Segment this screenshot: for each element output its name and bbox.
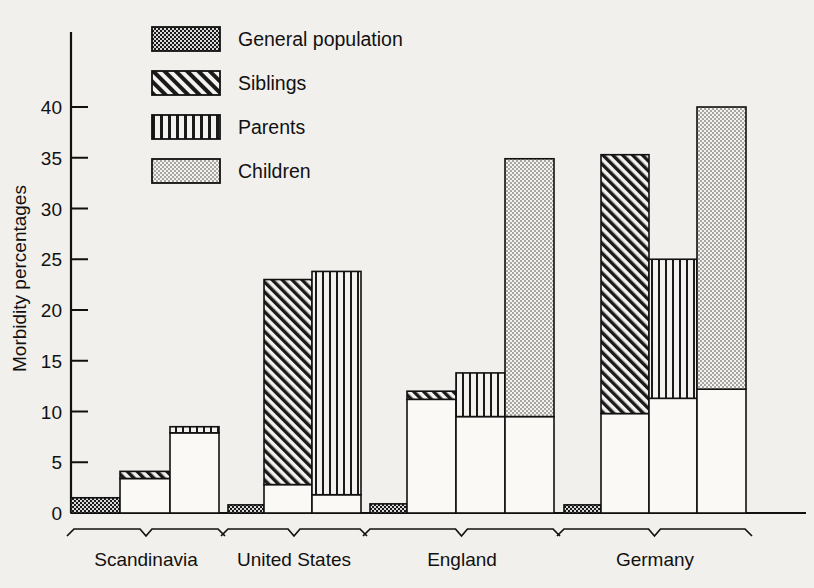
bar: [370, 504, 407, 513]
y-tick-label: 10: [41, 402, 62, 423]
legend-swatch-children: [152, 159, 220, 183]
y-tick-label: 5: [51, 452, 62, 473]
bar: [505, 159, 554, 513]
bar-pattern-segment: [170, 427, 219, 433]
bar-pattern-segment: [312, 271, 361, 494]
group-bracket: [557, 529, 752, 536]
legend-label: Siblings: [238, 72, 307, 94]
bar-pattern-segment: [564, 505, 601, 513]
legend-label: Parents: [238, 116, 305, 138]
chart-legend: General populationSiblingsParentsChildre…: [152, 27, 403, 183]
y-tick-label: 25: [41, 249, 62, 270]
bar-white-base-segment: [649, 398, 697, 513]
bar-white-base-segment: [407, 399, 456, 513]
group-label: England: [427, 549, 497, 570]
bar-pattern-segment: [697, 107, 746, 389]
cropped-caption-fragment: [0, 0, 814, 10]
bar: [71, 498, 120, 513]
group-bracket: [363, 529, 560, 536]
group-label: Scandinavia: [94, 549, 198, 570]
bar-pattern-segment: [601, 155, 649, 414]
y-axis: 0510152025303540 Morbidity percentages: [9, 32, 88, 524]
legend-label: General population: [238, 28, 403, 50]
y-tick-label: 15: [41, 351, 62, 372]
y-tick-label: 30: [41, 199, 62, 220]
bar-pattern-segment: [71, 498, 120, 513]
chart-canvas: 0510152025303540 Morbidity percentages S…: [0, 0, 814, 588]
bar-white-base-segment: [312, 495, 361, 513]
bar-pattern-segment: [407, 391, 456, 399]
bar-pattern-segment: [649, 259, 697, 398]
bar-pattern-segment: [370, 504, 407, 513]
bar-white-base-segment: [264, 485, 312, 513]
bar-white-base-segment: [505, 417, 554, 513]
group-bracket: [221, 529, 367, 536]
bar: [264, 280, 312, 513]
bar-white-base-segment: [697, 389, 746, 513]
bar: [601, 155, 649, 513]
group-label: Germany: [616, 549, 695, 570]
bar: [649, 259, 697, 513]
bar-white-base-segment: [120, 478, 170, 513]
bar-white-base-segment: [601, 414, 649, 513]
legend-swatch-parents: [152, 115, 220, 139]
bar: [228, 505, 264, 513]
bar-pattern-segment: [228, 505, 264, 513]
bar: [564, 505, 601, 513]
legend-swatch-general-population: [152, 27, 220, 51]
group-label: United States: [237, 549, 351, 570]
bar: [120, 471, 170, 513]
bar: [456, 373, 505, 513]
bar: [312, 271, 361, 513]
y-tick-label: 0: [51, 503, 62, 524]
bar-pattern-segment: [456, 373, 505, 417]
legend-label: Children: [238, 160, 311, 182]
y-tick-label: 20: [41, 300, 62, 321]
bar-white-base-segment: [456, 417, 505, 513]
group-axis-labels: ScandinaviaUnited StatesEnglandGermany: [67, 529, 752, 570]
legend-swatch-siblings: [152, 71, 220, 95]
bar-pattern-segment: [505, 159, 554, 417]
y-axis-label: Morbidity percentages: [9, 185, 30, 372]
y-tick-label: 35: [41, 148, 62, 169]
y-tick-label: 40: [41, 97, 62, 118]
group-bracket: [67, 529, 225, 536]
bar: [697, 107, 746, 513]
bar-pattern-segment: [120, 471, 170, 478]
bar-pattern-segment: [264, 280, 312, 485]
y-tick-group: 0510152025303540: [41, 97, 88, 524]
bar: [170, 427, 219, 513]
bar-white-base-segment: [170, 433, 219, 513]
bar: [407, 391, 456, 513]
chart-figure: 0510152025303540 Morbidity percentages S…: [0, 0, 814, 588]
